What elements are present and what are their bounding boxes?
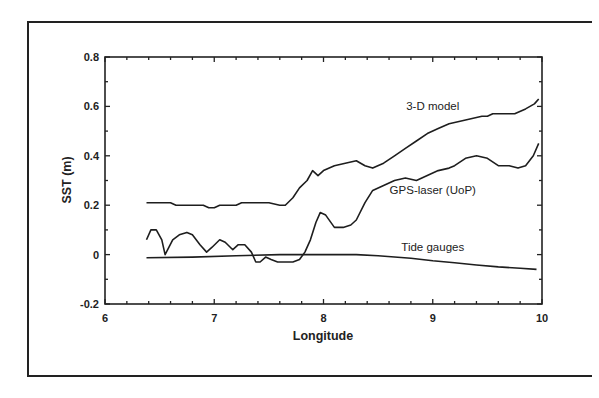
y-tick-label: 0.8 — [84, 51, 99, 63]
series-line-tide-gauges — [147, 255, 537, 270]
x-tick-label: 8 — [320, 312, 326, 324]
series-line-gps-laser-uop — [147, 143, 539, 262]
series-label-gps-laser-uop: GPS-laser (UoP) — [390, 184, 476, 196]
y-tick-label: 0.4 — [84, 150, 100, 162]
y-tick-label: -0.2 — [80, 298, 99, 310]
x-tick-label: 10 — [536, 312, 548, 324]
x-tick-label: 6 — [102, 312, 108, 324]
x-axis-title: Longitude — [293, 329, 353, 343]
y-axis-title: SST (m) — [60, 156, 74, 203]
series-labels: 3-D modelGPS-laser (UoP)Tide gauges — [390, 100, 476, 253]
sst-line-chart: 678910 -0.200.20.40.60.8 3-D modelGPS-la… — [0, 0, 599, 398]
y-tick-label: 0.2 — [84, 199, 99, 211]
series-label-3-d-model: 3-D model — [406, 100, 459, 112]
x-tick-labels: 678910 — [102, 312, 548, 324]
axis-ticks — [105, 57, 542, 304]
x-tick-label: 7 — [211, 312, 217, 324]
plot-area — [105, 57, 542, 304]
x-tick-label: 9 — [430, 312, 436, 324]
y-tick-labels: -0.200.20.40.60.8 — [80, 51, 100, 310]
y-tick-label: 0.6 — [84, 100, 99, 112]
y-tick-label: 0 — [93, 249, 99, 261]
series-label-tide-gauges: Tide gauges — [401, 241, 464, 253]
series-line-3-d-model — [147, 99, 539, 208]
data-series — [147, 99, 539, 269]
